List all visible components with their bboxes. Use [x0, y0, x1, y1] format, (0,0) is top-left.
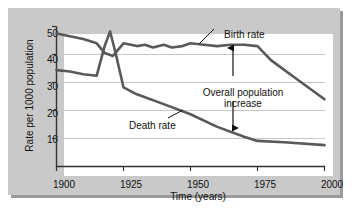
axis-lines	[57, 27, 326, 167]
gridlines	[57, 55, 326, 139]
figure-root: 50 40 30 20 10 1900 1925 1950 1975 2000 …	[0, 0, 356, 209]
axis-ticks	[52, 27, 325, 172]
leader-line-death-rate	[168, 110, 183, 118]
series-line-birth-rate	[57, 34, 325, 100]
leader-line-birth-rate	[199, 29, 214, 44]
chart-vector-layer	[0, 0, 356, 209]
series-line-death-rate	[57, 32, 325, 146]
axis-spines	[57, 27, 326, 167]
